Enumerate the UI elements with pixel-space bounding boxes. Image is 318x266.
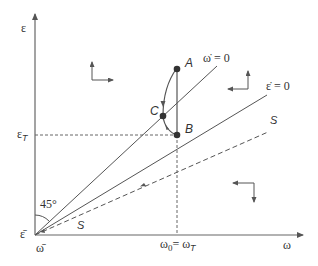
- omega-0-symbol: ω: [160, 237, 168, 251]
- saddle-path-label-upper: S: [270, 114, 278, 126]
- label-B: B: [185, 122, 193, 136]
- omega-equals: = ω: [172, 237, 190, 251]
- omega-T-subscript: T: [190, 243, 197, 253]
- epsilon-T-subscript: T: [22, 133, 29, 143]
- origin-omega-label: ω̄: [36, 241, 46, 255]
- trajectory-C-B: [163, 116, 177, 135]
- epsilon-dot-zero-label: ε̇ = 0: [266, 79, 290, 93]
- point-A: [174, 66, 181, 73]
- label-C: C: [150, 104, 159, 118]
- omega-0-label: ω0= ωT: [160, 237, 197, 253]
- origin-epsilon-label: ε̄: [20, 227, 27, 241]
- omega-dot-zero-label: ω̇ = 0: [203, 51, 230, 65]
- omega-dot-zero-line: [35, 66, 217, 235]
- trajectory-A-C: [163, 68, 177, 116]
- epsilon-T-label: εT: [17, 127, 29, 143]
- point-C: [160, 113, 167, 120]
- label-A: A: [184, 56, 193, 70]
- x-axis-label: ω: [283, 238, 291, 252]
- direction-arrows-lower-right: [233, 183, 254, 202]
- point-B: [174, 132, 181, 139]
- direction-arrows-middle: [228, 71, 248, 89]
- y-axis-label: ε: [21, 21, 26, 35]
- saddle-path-label-lower: S: [77, 219, 85, 231]
- direction-arrows-upper-left: [92, 62, 113, 80]
- trajectory-arrow-icon: [161, 101, 166, 107]
- trajectory-arrow-icon: [165, 124, 169, 130]
- angle-label: 45°: [40, 197, 57, 211]
- axes: [35, 14, 303, 235]
- phase-diagram: 45° A C B ω̇ = 0 ε̇ = 0 S S ε ω ε̄ ω̄ εT…: [0, 0, 318, 266]
- saddle-arrow-icon: [140, 183, 146, 187]
- angle-arc: [35, 215, 49, 221]
